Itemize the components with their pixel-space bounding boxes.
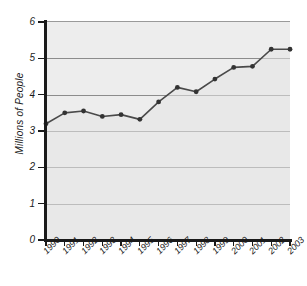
data-point-1992 [81,109,86,114]
line-chart: Millions of People 0123456 1990199119921… [0,0,307,286]
y-tick-4 [38,94,44,95]
y-tick-label-5: 5 [22,52,35,63]
y-tick-6 [38,21,44,22]
y-tick-2 [38,167,44,168]
data-point-1999 [213,77,218,82]
data-point-2001 [250,64,255,69]
data-point-1997 [175,85,180,90]
y-tick-label-4: 4 [22,89,35,100]
data-point-2000 [231,65,236,70]
series-layer [46,22,290,240]
data-point-2002 [269,47,274,52]
data-point-1993 [100,114,105,119]
y-tick-label-0: 0 [22,234,35,245]
y-tick-label-2: 2 [22,161,35,172]
data-point-1991 [62,110,67,115]
y-axis-line [44,20,47,242]
y-tick-label-3: 3 [22,125,35,136]
y-tick-label-6: 6 [22,16,35,27]
y-tick-label-1: 1 [22,198,35,209]
data-point-1998 [194,89,199,94]
y-tick-5 [38,58,44,59]
area-fill [46,49,290,240]
data-point-2003 [288,47,293,52]
y-tick-3 [38,130,44,131]
data-point-1996 [156,100,161,105]
y-tick-1 [38,203,44,204]
plot-area [46,22,290,240]
y-tick-0 [38,239,44,240]
data-point-1995 [137,117,142,122]
y-axis-title: Millions of People [14,49,25,179]
data-point-1994 [119,112,124,117]
